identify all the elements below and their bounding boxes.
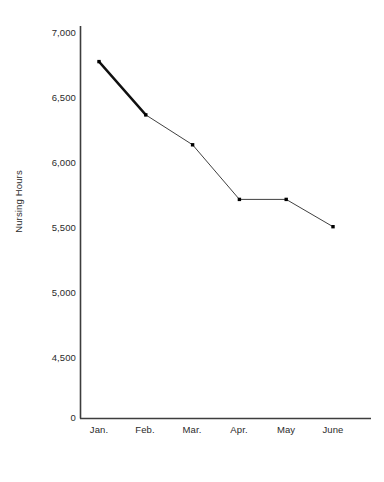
series-line-nursing-hours [99,62,333,227]
data-point-markers [97,60,334,229]
data-point-marker [191,143,194,146]
data-point-marker [331,225,334,228]
plot-area [0,0,384,482]
nursing-hours-line-chart: Nursing Hours 7,000 6,500 6,000 5,500 5,… [0,0,384,482]
series-line-segment-jan-feb [99,62,146,115]
data-point-marker [285,198,288,201]
data-point-marker [97,60,100,63]
data-point-marker [238,198,241,201]
data-point-marker [144,113,147,116]
